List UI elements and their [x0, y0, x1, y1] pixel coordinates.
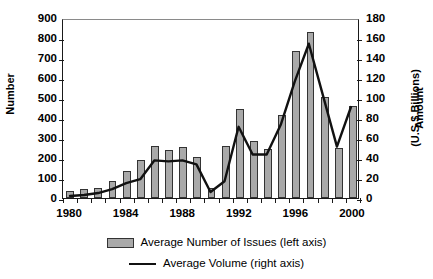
x-tick	[190, 198, 191, 203]
x-tick	[134, 198, 135, 203]
line-series	[63, 20, 358, 198]
x-tick	[261, 198, 262, 203]
y-right-tick	[357, 100, 362, 101]
y-right-tick	[357, 160, 362, 161]
y-right-tick-label: 100	[366, 93, 385, 105]
x-tick	[318, 198, 319, 203]
y-right-tick	[357, 120, 362, 121]
x-tick-label-1980: 1980	[56, 208, 82, 220]
y-right-tick-label: 60	[366, 133, 379, 145]
x-tick	[219, 198, 220, 203]
y-left-tick-label: 300	[24, 133, 57, 145]
x-tick	[247, 198, 248, 203]
x-tick	[162, 198, 163, 203]
x-tick	[176, 198, 177, 203]
y-left-tick-label: 800	[24, 33, 57, 45]
y-left-tick-label: 600	[24, 73, 57, 85]
y-left-tick-label: 0	[24, 193, 57, 205]
bar-swatch-icon	[107, 238, 134, 248]
legend-item-issues: Average Number of Issues (left axis)	[0, 232, 433, 253]
y-left-tick-label: 200	[24, 153, 57, 165]
y-left-tick	[59, 100, 64, 101]
y-left-tick-label: 400	[24, 113, 57, 125]
chart-legend: Average Number of Issues (left axis) Ave…	[0, 232, 433, 274]
x-tick	[289, 198, 290, 203]
y-right-tick	[357, 40, 362, 41]
y-right-tick	[357, 180, 362, 181]
y-right-tick-label: 160	[366, 33, 385, 45]
x-tick	[148, 198, 149, 203]
y-left-tick	[59, 160, 64, 161]
left-axis-title: Number	[4, 58, 16, 130]
x-tick-label-2000: 2000	[339, 208, 365, 220]
y-left-tick-label: 100	[24, 173, 57, 185]
y-right-tick-label: 180	[366, 13, 385, 25]
y-left-tick	[59, 60, 64, 61]
y-left-tick-label: 900	[24, 13, 57, 25]
y-left-tick	[59, 120, 64, 121]
y-right-tick-label: 80	[366, 113, 379, 125]
x-tick	[77, 198, 78, 203]
y-right-tick	[357, 60, 362, 61]
right-axis-title-line2: (U.S.$ Billions)	[409, 63, 421, 153]
legend-label-issues: Average Number of Issues (left axis)	[141, 237, 327, 249]
average-volume-polyline	[70, 44, 351, 196]
legend-item-volume: Average Volume (right axis)	[0, 253, 433, 274]
x-tick	[91, 198, 92, 203]
right-axis-labels: 020406080100120140160180	[366, 19, 396, 199]
x-tick-label-1988: 1988	[169, 208, 195, 220]
left-axis-labels: 0100200300400500600700800900	[24, 19, 57, 199]
x-tick	[120, 198, 121, 203]
y-right-tick-label: 0	[366, 193, 372, 205]
x-tick	[275, 198, 276, 203]
x-tick-label-1996: 1996	[283, 208, 309, 220]
x-tick	[204, 198, 205, 203]
y-right-tick	[357, 80, 362, 81]
y-right-tick-label: 140	[366, 53, 385, 65]
y-right-tick-label: 120	[366, 73, 385, 85]
y-right-tick-label: 40	[366, 153, 379, 165]
x-tick	[63, 198, 64, 203]
x-tick	[303, 198, 304, 203]
y-left-tick-label: 500	[24, 93, 57, 105]
x-tick-label-1984: 1984	[113, 208, 139, 220]
plot-area	[62, 19, 359, 199]
y-right-tick-label: 20	[366, 173, 379, 185]
y-right-tick	[357, 140, 362, 141]
x-tick	[360, 198, 361, 203]
x-tick	[233, 198, 234, 203]
right-axis-title: Amount (U.S.$ Billions)	[404, 55, 433, 165]
x-tick	[105, 198, 106, 203]
x-axis-labels: 198019841988199219962000	[62, 206, 359, 224]
y-left-tick	[59, 180, 64, 181]
y-left-tick	[59, 140, 64, 141]
chart-figure: Number Amount (U.S.$ Billions) 010020030…	[0, 0, 433, 279]
y-left-tick-label: 700	[24, 53, 57, 65]
legend-label-volume: Average Volume (right axis)	[163, 258, 304, 270]
x-tick	[346, 198, 347, 203]
x-tick-label-1992: 1992	[226, 208, 252, 220]
x-tick	[332, 198, 333, 203]
y-left-tick	[59, 40, 64, 41]
line-swatch-icon	[129, 263, 156, 265]
y-left-tick	[59, 80, 64, 81]
